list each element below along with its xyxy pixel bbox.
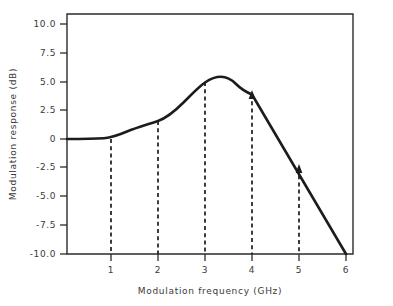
y-tick-label: -5.0 xyxy=(36,191,56,201)
x-axis-tick-labels: 1 2 3 4 5 6 xyxy=(108,265,349,275)
x-tick-label: 5 xyxy=(296,265,302,275)
y-tick-label: 5.0 xyxy=(40,77,56,87)
x-tick-label: 3 xyxy=(202,265,208,275)
y-tick-label: 10.0 xyxy=(34,19,56,29)
x-axis-title: Modulation frequency (GHz) xyxy=(138,286,283,296)
x-tick-label: 2 xyxy=(155,265,161,275)
x-axis-ticks xyxy=(111,254,346,261)
y-tick-label: -2.5 xyxy=(36,162,56,172)
x-tick-label: 4 xyxy=(249,265,255,275)
x-tick-label: 1 xyxy=(108,265,114,275)
y-tick-label: 7.5 xyxy=(40,48,56,58)
drop-lines xyxy=(111,82,299,254)
plot-frame xyxy=(67,14,353,254)
chart-figure: 10.0 7.5 5.0 2.5 0 -2.5 -5.0 -7.5 -10.0 … xyxy=(0,0,393,306)
y-axis-tick-labels: 10.0 7.5 5.0 2.5 0 -2.5 -5.0 -7.5 -10.0 xyxy=(30,19,56,259)
x-tick-label: 6 xyxy=(343,265,349,275)
y-tick-label: -10.0 xyxy=(30,249,56,259)
y-axis-title: Modulation response (dB) xyxy=(8,68,18,200)
y-tick-label: 0 xyxy=(50,134,56,144)
response-curve xyxy=(67,77,346,254)
y-tick-label: -7.5 xyxy=(36,220,56,230)
modulation-response-chart: 10.0 7.5 5.0 2.5 0 -2.5 -5.0 -7.5 -10.0 … xyxy=(0,0,393,306)
y-tick-label: 2.5 xyxy=(40,105,56,115)
modulation-response-line xyxy=(67,77,346,254)
